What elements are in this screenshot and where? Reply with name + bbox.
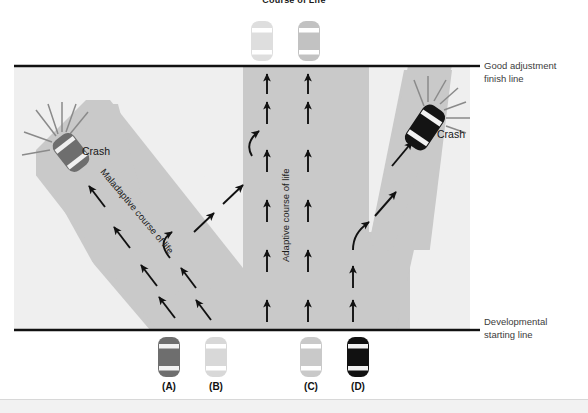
car-caption-b: (B) (196, 381, 236, 392)
car-bottom-c (300, 337, 322, 377)
figure-canvas: Course of Life (0, 0, 588, 413)
crash-right-label: Crash (437, 128, 465, 140)
car-top-right (298, 21, 320, 61)
adaptive-path-label: Adaptive course of life (280, 169, 291, 262)
car-caption-d: (D) (338, 381, 378, 392)
crash-left-label: Crash (82, 145, 110, 157)
finish-line-label: Good adjustment finish line (484, 60, 556, 85)
starting-line-label: Developmental starting line (484, 316, 547, 341)
car-top-left (251, 21, 273, 61)
car-bottom-d (347, 337, 369, 377)
car-bottom-a (158, 337, 180, 377)
car-caption-a: (A) (149, 381, 189, 392)
car-bottom-b (205, 337, 227, 377)
car-caption-c: (C) (291, 381, 331, 392)
footer-band (0, 400, 588, 413)
panel-mask-right-notch (410, 250, 470, 330)
central-road (243, 66, 369, 330)
